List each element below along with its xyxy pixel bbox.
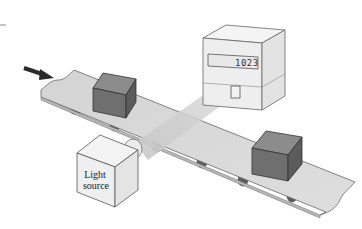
package-box [252,131,302,181]
counter-display: 1023 [208,54,259,69]
package-box [93,73,136,118]
conveyor-diagram: 1023 Light source [0,0,362,229]
direction-arrow-icon [24,68,54,80]
light-source-label-line1: Light [84,169,106,180]
light-source-label-line2: source [83,180,110,191]
sensor-window [231,86,240,98]
counter-value: 1023 [235,58,259,68]
